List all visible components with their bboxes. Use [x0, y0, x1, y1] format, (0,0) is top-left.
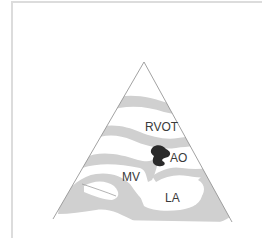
- rv-anterior-wall: [104, 96, 200, 115]
- ao-posterior-wall: [152, 167, 226, 182]
- label-la: LA: [165, 191, 180, 205]
- tissue-structures: [58, 96, 236, 230]
- label-mv: MV: [122, 170, 140, 184]
- label-ao: AO: [170, 151, 187, 165]
- echo-diagram: RVOT AO MV LA: [0, 0, 262, 247]
- label-rvot: RVOT: [145, 120, 179, 134]
